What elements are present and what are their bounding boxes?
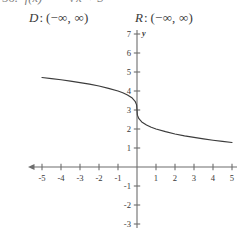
x-tick-label: -4 xyxy=(57,173,65,183)
axes xyxy=(28,30,237,228)
range-answer: R:(−∞, ∞) xyxy=(135,10,193,26)
radical-symbol: √ xyxy=(68,0,75,5)
cube-root-radical: 3 √x xyxy=(68,0,82,6)
x-tick-label: 1 xyxy=(154,173,158,183)
x-tick-label: 5 xyxy=(230,173,234,183)
y-tick-label: 7 xyxy=(127,30,132,39)
function-label: f(x) xyxy=(25,0,42,5)
y-tick-label: -3 xyxy=(124,219,131,228)
coordinate-graph: -5-4-3-2-112345-3-2-11234567 yx xyxy=(0,30,237,228)
x-tick-label: -3 xyxy=(76,173,83,183)
x-tick-label: 4 xyxy=(211,173,216,183)
x-tick-label: 3 xyxy=(192,173,196,183)
radicand: x xyxy=(76,0,83,5)
x-tick-label: -5 xyxy=(38,173,45,183)
y-axis-label: y xyxy=(141,30,146,38)
domain-letter: D xyxy=(29,10,38,25)
y-tick-label: 3 xyxy=(127,105,131,115)
range-interval: (−∞, ∞) xyxy=(151,10,193,25)
x-tick-label: -1 xyxy=(114,173,121,183)
problem-expression: f(x) = − 3 √x + 3 xyxy=(25,0,104,6)
negative-sign: − xyxy=(57,0,65,5)
problem-number: 36. xyxy=(2,0,18,6)
x-tick-label: -2 xyxy=(95,173,102,183)
x-tick-label: 2 xyxy=(173,173,177,183)
y-tick-label: -2 xyxy=(124,200,131,210)
range-colon: : xyxy=(144,10,148,25)
graph-svg: -5-4-3-2-112345-3-2-11234567 yx xyxy=(0,30,237,228)
answer-line: D:(−∞, ∞) R:(−∞, ∞) xyxy=(0,10,237,30)
y-tick-label: 5 xyxy=(127,67,131,77)
domain-colon: : xyxy=(39,10,43,25)
domain-interval: (−∞, ∞) xyxy=(46,10,88,25)
equals-sign: = xyxy=(45,0,53,5)
range-letter: R xyxy=(135,10,143,25)
worksheet-page: 36. f(x) = − 3 √x + 3 D:(−∞, ∞) R:(−∞, ∞… xyxy=(0,0,237,228)
y-tick-label: 1 xyxy=(127,143,131,153)
y-tick-label: -1 xyxy=(124,181,131,191)
arrow-left-icon xyxy=(28,164,35,170)
plus-constant: + 3 xyxy=(86,0,104,5)
problem-statement: 36. f(x) = − 3 √x + 3 xyxy=(0,0,237,7)
y-tick-label: 2 xyxy=(127,124,131,134)
y-tick-label: 6 xyxy=(127,48,132,58)
axis-names: yx xyxy=(141,30,237,182)
domain-answer: D:(−∞, ∞) xyxy=(29,10,88,26)
